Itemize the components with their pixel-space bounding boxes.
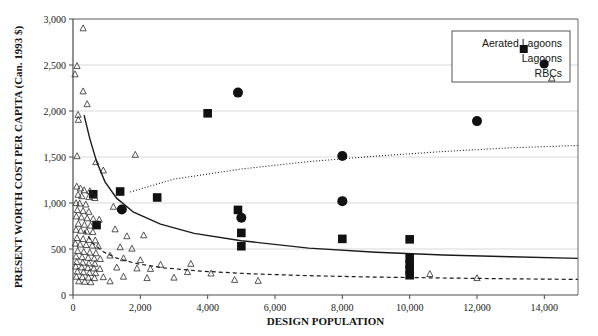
series-lagoons-marker [472, 116, 482, 126]
scatter-chart: 02,0004,0006,0008,00010,00012,00014,0000… [0, 0, 598, 336]
series-lagoons-marker [337, 151, 347, 161]
series-lagoons-marker [236, 213, 246, 223]
series-aerated-lagoons-marker [405, 235, 414, 244]
y-tick-label: 1,000 [44, 198, 67, 209]
x-tick-label: 8,000 [331, 302, 354, 313]
series-aerated-lagoons-marker [237, 242, 246, 251]
chart-container: 02,0004,0006,0008,00010,00012,00014,0000… [0, 0, 598, 336]
y-tick-label: 1,500 [44, 152, 67, 163]
series-aerated-lagoons-marker [338, 235, 347, 244]
x-tick-label: 4,000 [196, 302, 219, 313]
x-tick-label: 6,000 [264, 302, 287, 313]
series-lagoons-marker [337, 196, 347, 206]
series-lagoons-marker [233, 88, 243, 98]
x-tick-label: 0 [71, 302, 76, 313]
legend-label-2: RBCs [535, 67, 562, 79]
series-lagoons-marker [117, 204, 127, 214]
y-tick-label: 2,500 [44, 60, 67, 71]
series-aerated-lagoons-marker [153, 193, 162, 202]
series-aerated-lagoons-marker [203, 109, 212, 118]
x-tick-label: 14,000 [531, 302, 559, 313]
y-tick-label: 2,000 [44, 106, 67, 117]
x-tick-label: 10,000 [396, 302, 424, 313]
y-axis-title: PRESENT WORTH COST PER CAPITA (Can. 1993… [12, 26, 25, 289]
y-tick-label: 0 [61, 290, 66, 301]
x-tick-label: 2,000 [129, 302, 152, 313]
series-aerated-lagoons-marker [237, 229, 246, 238]
y-tick-label: 3,000 [44, 14, 67, 25]
series-aerated-lagoons-marker [405, 271, 414, 280]
x-tick-label: 12,000 [463, 302, 491, 313]
series-aerated-lagoons-marker [116, 187, 125, 196]
y-tick-label: 500 [51, 244, 66, 255]
x-axis-title: DESIGN POPULATION [267, 315, 385, 327]
